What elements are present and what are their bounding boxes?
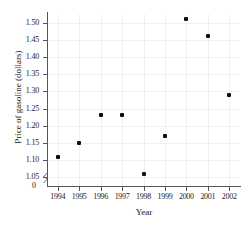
x-axis-tick	[144, 186, 145, 191]
y-axis-tick-label: 1.25	[0, 105, 39, 113]
y-axis-tick	[43, 109, 48, 110]
data-point	[142, 172, 146, 176]
gridline-vertical	[144, 14, 145, 186]
x-axis-tick	[58, 186, 59, 191]
y-axis-tick	[43, 23, 48, 24]
x-axis-tick	[101, 186, 102, 191]
x-axis-tick-label: 2002	[213, 193, 245, 201]
x-axis-tick	[165, 186, 166, 191]
y-axis-tick	[43, 177, 48, 178]
scatter-plot-figure: 0 Year Price of gasoline (dollars) 1.501…	[0, 0, 249, 225]
data-point	[77, 141, 81, 145]
y-axis-tick-label: 1.10	[0, 156, 39, 164]
y-axis-tick-label: 1.05	[0, 173, 39, 181]
gridline-vertical	[79, 14, 80, 186]
gridline-vertical	[122, 14, 123, 186]
gridline-vertical	[208, 14, 209, 186]
data-point	[120, 113, 124, 117]
gridline-vertical	[186, 14, 187, 186]
data-point	[206, 34, 210, 38]
gridline-vertical	[101, 14, 102, 186]
plot-area	[47, 14, 240, 186]
y-axis-tick	[43, 143, 48, 144]
data-point	[184, 17, 188, 21]
data-point	[56, 155, 60, 159]
data-point	[99, 113, 103, 117]
y-axis-tick	[43, 160, 48, 161]
x-axis-tick	[229, 186, 230, 191]
gridline-vertical	[58, 14, 59, 186]
data-point	[227, 93, 231, 97]
data-point	[163, 134, 167, 138]
y-axis-tick	[43, 57, 48, 58]
y-axis-tick	[43, 91, 48, 92]
y-axis-tick	[43, 74, 48, 75]
y-axis-tick-label: 1.30	[0, 87, 39, 95]
y-axis-tick-label: 1.35	[0, 70, 39, 78]
y-axis-tick-label: 1.40	[0, 53, 39, 61]
x-axis-tick	[79, 186, 80, 191]
x-axis-title: Year	[47, 207, 241, 217]
y-axis-tick	[43, 126, 48, 127]
y-axis-tick-label: 1.15	[0, 139, 39, 147]
y-axis-tick-label: 1.50	[0, 19, 39, 27]
x-axis-tick	[122, 186, 123, 191]
y-axis-tick	[43, 40, 48, 41]
gridline-vertical	[165, 14, 166, 186]
gridline-vertical	[229, 14, 230, 186]
y-axis-zero-label: 0	[32, 182, 36, 190]
x-axis-tick	[186, 186, 187, 191]
y-axis-tick-label: 1.20	[0, 122, 39, 130]
x-axis-tick	[208, 186, 209, 191]
y-axis-tick-label: 1.45	[0, 36, 39, 44]
